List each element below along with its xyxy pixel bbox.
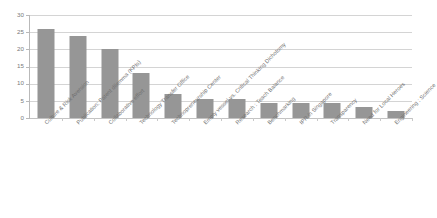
y-tick-label-30: 30: [0, 12, 24, 18]
bar[interactable]: [69, 36, 86, 118]
y-tick-label-20: 20: [0, 46, 24, 52]
y-tick-label-5: 5: [0, 98, 24, 104]
y-tick-label-15: 15: [0, 63, 24, 69]
x-axis-labels: Culture & Risk AversionPublication: Pate…: [0, 118, 415, 218]
bar-slot: [30, 15, 62, 118]
y-tick-label-25: 25: [0, 29, 24, 35]
y-tick-label-10: 10: [0, 80, 24, 86]
bar[interactable]: [37, 29, 54, 118]
